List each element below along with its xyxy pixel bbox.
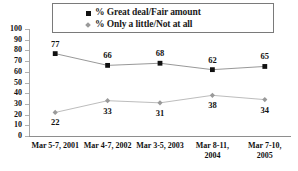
data-point-label: 68 bbox=[145, 49, 175, 58]
legend-item-label: % Great deal/Fair amount bbox=[95, 7, 201, 18]
data-point-marker bbox=[105, 98, 110, 103]
data-point-marker bbox=[262, 97, 267, 102]
data-point-marker bbox=[53, 110, 58, 115]
legend-item-only-a-little-not-at-all: % Only a little/Not at all bbox=[83, 18, 192, 31]
diamond-marker-icon bbox=[83, 19, 95, 31]
data-point-label: 66 bbox=[93, 51, 123, 60]
data-point-label: 34 bbox=[250, 106, 280, 115]
data-point-label: 33 bbox=[93, 107, 123, 116]
data-point-marker bbox=[210, 67, 215, 72]
data-point-marker bbox=[157, 100, 162, 105]
data-point-label: 65 bbox=[250, 52, 280, 61]
line-chart: % Great deal/Fair amount % Only a little… bbox=[0, 0, 298, 171]
data-point-label: 31 bbox=[145, 109, 175, 118]
chart-legend: % Great deal/Fair amount % Only a little… bbox=[52, 3, 274, 33]
data-point-marker bbox=[105, 63, 110, 68]
data-point-label: 62 bbox=[197, 56, 227, 65]
square-marker-icon bbox=[83, 7, 95, 19]
data-point-label: 77 bbox=[40, 40, 70, 49]
data-point-label: 22 bbox=[40, 118, 70, 127]
data-point-marker bbox=[210, 93, 215, 98]
data-point-marker bbox=[53, 51, 58, 56]
legend-item-label: % Only a little/Not at all bbox=[95, 19, 192, 30]
data-point-marker bbox=[158, 61, 163, 66]
data-point-marker bbox=[262, 64, 267, 69]
data-point-label: 38 bbox=[197, 101, 227, 110]
